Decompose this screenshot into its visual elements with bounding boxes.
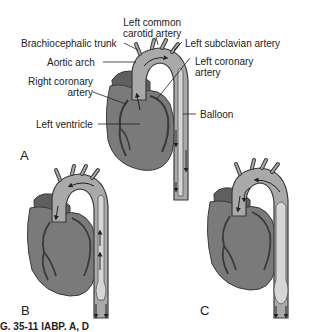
label-left-common-carotid: Left common carotid artery xyxy=(123,17,181,39)
label-balloon: Balloon xyxy=(200,109,233,120)
label-brachiocephalic-trunk: Brachiocephalic trunk xyxy=(21,38,117,49)
panel-label-b: B xyxy=(21,303,30,318)
label-left-coronary-artery: Left coronary artery xyxy=(195,56,253,78)
label-left-subclavian-artery: Left subclavian artery xyxy=(185,38,280,49)
label-aortic-arch: Aortic arch xyxy=(47,57,95,68)
label-right-coronary-line2: artery xyxy=(28,87,93,98)
balloon-c xyxy=(274,202,288,304)
panel-label-a: A xyxy=(20,148,29,163)
label-left-ventricle: Left ventricle xyxy=(36,119,93,130)
panel-b-illustration xyxy=(27,166,108,318)
panel-c-illustration xyxy=(207,160,288,318)
label-right-coronary-line1: Right coronary xyxy=(28,76,93,87)
label-left-common-carotid-line2: carotid artery xyxy=(123,28,181,39)
figure-caption: G. 35-11 IABP. A, D xyxy=(0,321,89,332)
panel-a-illustration xyxy=(93,37,196,200)
label-left-coronary-line2: artery xyxy=(195,67,253,78)
label-left-coronary-line1: Left coronary xyxy=(195,56,253,67)
panel-label-c: C xyxy=(200,303,209,318)
label-right-coronary-artery: Right coronary artery xyxy=(28,76,93,98)
label-left-common-carotid-line1: Left common xyxy=(123,17,181,28)
balloon-a xyxy=(178,68,183,196)
